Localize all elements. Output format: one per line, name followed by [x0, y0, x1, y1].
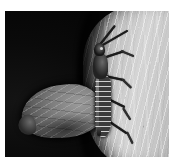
- bug-eye: [100, 47, 103, 50]
- bug-body-highlight: [96, 78, 99, 134]
- photo-caption: [0, 157, 174, 162]
- predatory-bug: [87, 31, 117, 141]
- frame-margin-left: [0, 0, 5, 162]
- frame-margin-right: [169, 0, 174, 162]
- photo-frame: [0, 0, 174, 162]
- frame-margin-top: [0, 0, 174, 11]
- bug-rostrum: [97, 127, 101, 136]
- photograph: [5, 11, 169, 157]
- bug-thorax: [93, 53, 108, 79]
